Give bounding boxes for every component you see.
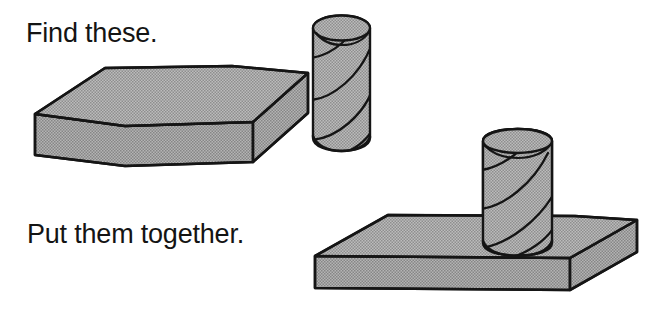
slab-assembled — [315, 215, 637, 290]
cylinder-separate — [311, 16, 375, 156]
caption-put-them-together: Put them together. — [27, 219, 244, 250]
cylinder-assembled — [481, 129, 556, 260]
slab2-front-face — [315, 256, 570, 290]
put-them-together-objects — [315, 129, 637, 290]
caption-find-these: Find these. — [26, 18, 157, 49]
cylinder2-top-ellipse — [483, 129, 552, 153]
illustration-page: Find these. Put them together. — [0, 0, 668, 310]
cylinder-top-ellipse — [313, 16, 370, 41]
slab-separate — [35, 66, 308, 166]
